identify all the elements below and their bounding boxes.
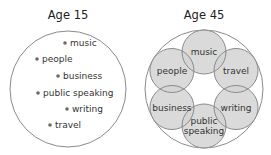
age-15-item-label: travel [55,120,81,130]
bullet-dot-icon [63,41,67,45]
age-15-diagram: Age 15 musicpeoplebusinesspublic speakin… [10,8,126,147]
age-15-item-music: music [63,38,96,48]
age-45-title: Age 45 [184,8,225,22]
age-45-circle-label: speaking [184,126,225,136]
age-15-item-label: people [42,54,73,64]
bullet-dot-icon [56,74,60,78]
age-15-item-writing: writing [65,104,103,114]
age-45-circle-label: music [191,47,218,57]
bullet-dot-icon [48,123,52,127]
age-45-circle-label: public [190,116,217,126]
age-15-item-label: music [70,38,97,48]
age-15-item-people: people [35,54,73,64]
age-45-circle-label: travel [223,66,249,76]
age-15-item-label: writing [72,104,103,114]
age-45-circle-label: people [157,66,188,76]
age-15-item-label: business [63,71,103,81]
bullet-dot-icon [35,57,39,61]
age-15-item-travel: travel [48,120,81,130]
bullet-dot-icon [36,91,40,95]
age-45-circle-label: writing [221,103,252,113]
age-15-item-label: public speaking [43,88,114,98]
age-15-item-list: musicpeoplebusinesspublic speakingwritin… [35,38,113,130]
diagram-canvas: Age 15 musicpeoplebusinesspublic speakin… [0,0,271,155]
bullet-dot-icon [65,107,69,111]
age-15-item-public-speaking: public speaking [36,88,113,98]
age-15-title: Age 15 [48,8,89,22]
age-15-item-business: business [56,71,102,81]
age-45-diagram: Age 45 musictravelwritingpublicspeakingb… [145,8,263,148]
age-45-circle-label: business [152,103,192,113]
